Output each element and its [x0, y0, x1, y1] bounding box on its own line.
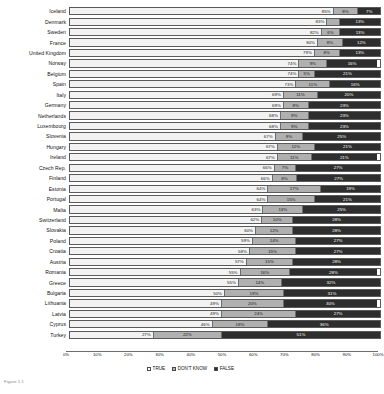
bar-segment-true: 69%	[70, 102, 284, 108]
bar-segment-true-value: 49%	[210, 311, 219, 316]
bar-segment-dont-know: 8%	[315, 50, 340, 56]
bar-track: 80%8%12%	[69, 38, 381, 46]
bar-segment-dont-know-value: 15%	[268, 249, 277, 254]
bar-segment-false: 28%	[293, 259, 380, 265]
bar-segment-dont-know: 19%	[225, 290, 284, 296]
bar-segment-false-value: 23%	[340, 103, 349, 108]
bar-segment-dont-know-value: 13%	[278, 207, 287, 212]
bar-segment-dont-know-value: 5%	[303, 71, 309, 76]
bar-segment-true: 55%	[70, 269, 241, 275]
bar-segment-true: 83%	[70, 19, 327, 25]
bar-track: 69%8%23%	[69, 101, 381, 109]
bar-segment-true-value: 57%	[235, 259, 244, 264]
category-label: Slovenia	[0, 133, 69, 139]
bar-segment-true-value: 67%	[264, 134, 273, 139]
bar-segment-false: 21%	[315, 196, 380, 202]
bar-segment-true: 59%	[70, 238, 253, 244]
chart-row: Denmark83%4%13%	[0, 16, 381, 26]
bar-segment-true: 60%	[70, 227, 256, 233]
bar-segment-dont-know-value: 20%	[248, 301, 257, 306]
bar-track: 60%12%28%	[69, 226, 381, 234]
bar-track: 67%12%21%	[69, 143, 381, 151]
bar-track: 68%9%23%	[69, 111, 381, 119]
bar-segment-false-value: 19%	[346, 186, 355, 191]
category-label: Sweden	[0, 29, 69, 35]
bar-segment-true: 49%	[70, 300, 222, 306]
bar-segment-true-value: 79%	[303, 50, 312, 55]
bar-segment-true-value: 67%	[266, 155, 275, 160]
bar-segment-dont-know-value: 12%	[270, 228, 279, 233]
bar-segment-true: 55%	[70, 279, 239, 285]
bar-track: 59%14%27%	[69, 237, 381, 245]
bar-segment-dont-know-value: 8%	[324, 50, 330, 55]
bar-segment-dont-know-value: 9%	[291, 113, 297, 118]
bar-segment-false-value: 51%	[297, 332, 306, 337]
bar-segment-false-value: 36%	[320, 322, 329, 327]
bar-segment-false: 23%	[309, 112, 380, 118]
bar-track: 67%11%21%	[69, 153, 381, 161]
chart-row: Turkey27%22%51%	[0, 330, 381, 340]
bar-segment-dont-know: 18%	[213, 321, 269, 327]
category-label: Turkey	[0, 332, 69, 338]
chart-row: Ireland67%11%21%	[0, 152, 381, 162]
chart-row: Spain73%11%16%	[0, 79, 381, 89]
bar-segment-true-value: 66%	[263, 165, 272, 170]
chart-row: Greece55%14%32%	[0, 277, 381, 287]
chart-row: Netherlands68%9%23%	[0, 110, 381, 120]
bar-segment-dont-know: 11%	[284, 92, 318, 98]
bar-segment-dont-know: 14%	[239, 279, 282, 285]
bar-segment-false: 13%	[340, 50, 380, 56]
bar-segment-false: 28%	[290, 269, 377, 275]
category-label: Greece	[0, 280, 69, 286]
category-label: Lithuania	[0, 300, 69, 306]
bar-segment-dont-know: 6%	[322, 29, 340, 35]
bar-segment-true-value: 50%	[213, 291, 222, 296]
bar-segment-false-value: 27%	[334, 311, 343, 316]
figure-caption: Figure 1.1	[4, 379, 24, 385]
bar-segment-false-value: 31%	[328, 291, 337, 296]
bar-segment-false: 28%	[293, 217, 380, 223]
legend-label-dont-know: DON'T KNOW	[178, 366, 207, 372]
bar-segment-true-value: 74%	[288, 61, 297, 66]
bar-segment-false: 27%	[296, 238, 380, 244]
bar-segment-dont-know-value: 8%	[293, 103, 299, 108]
category-label: Bulgaria	[0, 290, 69, 296]
bar-segment-false: 23%	[309, 123, 380, 129]
bar-segment-true: 68%	[70, 123, 281, 129]
bar-segment-true-value: 69%	[272, 103, 281, 108]
bar-track: 63%13%25%	[69, 205, 381, 213]
chart-row: Norway74%9%16%	[0, 58, 381, 68]
bar-segment-dont-know: 15%	[247, 259, 294, 265]
x-axis-tick-label: 20%	[124, 352, 133, 357]
bar-segment-dont-know: 17%	[268, 186, 321, 192]
bar-segment-false-value: 23%	[340, 124, 349, 129]
category-label: Italy	[0, 92, 69, 98]
bar-segment-dont-know: 14%	[253, 238, 296, 244]
chart-row: Bulgaria50%19%31%	[0, 288, 381, 298]
bar-track: 66%7%27%	[69, 164, 381, 172]
bar-segment-false-value: 23%	[340, 113, 349, 118]
chart-plot-area: Iceland85%8%7%Denmark83%4%13%Sweden82%6%…	[0, 6, 381, 351]
bar-segment-true-value: 74%	[288, 71, 297, 76]
bar-segment-dont-know-value: 9%	[310, 61, 316, 66]
bar-segment-true: 69%	[70, 92, 284, 98]
chart-row: Czech Rep.66%7%27%	[0, 163, 381, 173]
chart-row: Romania55%16%28%	[0, 267, 381, 277]
legend-item-true: TRUE	[147, 366, 165, 372]
bar-segment-false-value: 25%	[337, 207, 346, 212]
bar-segment-dont-know-value: 10%	[273, 217, 282, 222]
bar-track: 66%8%27%	[69, 174, 381, 182]
bar-segment-true: 74%	[70, 71, 299, 77]
chart-row: Austria57%15%28%	[0, 257, 381, 267]
bar-segment-true: 66%	[70, 165, 275, 171]
bar-segment-true: 82%	[70, 29, 322, 35]
category-label: Latvia	[0, 311, 69, 317]
bar-segment-true-value: 59%	[241, 238, 250, 243]
bar-segment-true: 46%	[70, 321, 213, 327]
bar-segment-dont-know-value: 11%	[290, 155, 298, 160]
bar-segment-false: 51%	[222, 332, 380, 338]
bar-segment-false: 12%	[343, 39, 380, 45]
bar-segment-false-value: 20%	[345, 92, 354, 97]
bar-track: 74%9%16%	[69, 59, 381, 67]
